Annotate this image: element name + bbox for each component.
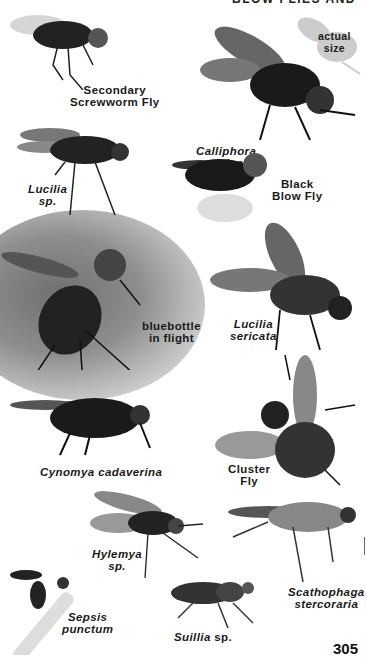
cynomya-cadaverina-image (10, 393, 160, 458)
label-scathophaga-stercoraria: Scathophagastercoraria (288, 586, 365, 610)
label-black-blow-fly: BlackBlow Fly (272, 178, 322, 202)
label-cluster-fly: ClusterFly (228, 463, 270, 487)
actual-size-note: actualsize (318, 30, 351, 54)
label-secondary-screwworm-fly: SecondaryScrewworm Fly (70, 84, 160, 108)
label-cynomya-cadaverina: Cynomya cadaverina (40, 466, 162, 478)
margin-mark (364, 537, 365, 555)
page-header: BLOW FLIES AND OTHERS (170, 0, 366, 4)
label-hylemya-sp: Hylemyasp. (92, 548, 142, 572)
label-sepsis-punctum: Sepsispunctum (62, 611, 113, 635)
bluebottle-image (0, 240, 150, 370)
black-blow-fly-image (170, 150, 270, 225)
suillia-sp-image (168, 578, 258, 638)
secondary-screwworm-fly-image (8, 5, 113, 90)
label-suillia-sp: Suillia sp. (174, 631, 232, 643)
scathophaga-stercoraria-image (228, 497, 358, 582)
page-number: 305 (333, 640, 358, 657)
label-bluebottle: bluebottlein flight (142, 320, 201, 344)
label-lucilia-sp: Luciliasp. (28, 183, 67, 207)
sepsis-punctum-image (8, 565, 93, 655)
label-lucilia-sericata: Luciliasericata (230, 318, 277, 342)
